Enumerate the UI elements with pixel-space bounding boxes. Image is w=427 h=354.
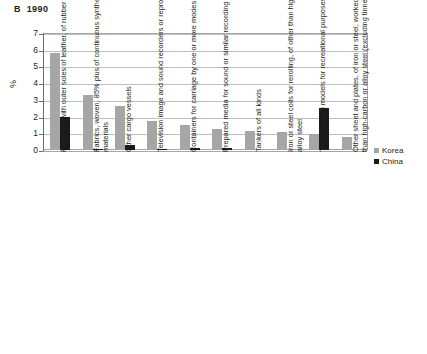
y-tick-label-6: 6 [16,46,38,55]
category-label-9: Other sheet and plates, of iron or steel… [352,0,369,152]
y-tick-label-4: 4 [16,79,38,88]
category-label-6: Tankers of all kinds [255,0,264,152]
category-label-0: Footwear with outer soles of leather, of… [60,0,69,152]
chart-title: B 1990 [14,4,48,14]
category-label-7: Iron or steel coils for rerolling, of ot… [287,0,304,152]
legend-label-korea: Korea [382,145,403,156]
chart-panel: B 1990 % 01234567 Footwear with outer so… [0,0,427,354]
category-label-cell: Iron or steel coils for rerolling, of ot… [271,152,303,350]
category-label-cell: Prepared media for sound or similar reco… [206,152,238,350]
category-label-cell: Tankers of all kinds [238,152,270,350]
category-label-3: Television image and sound recorders or … [157,0,166,152]
x-axis-category-labels: Footwear with outer soles of leather, of… [44,152,368,350]
category-label-cell: Footwear with outer soles of leather, of… [44,152,76,350]
y-tick-label-1: 1 [16,129,38,138]
y-tick-label-3: 3 [16,96,38,105]
y-axis-tick-labels: 01234567 [14,33,38,151]
legend-swatch-korea [374,148,379,153]
legend-swatch-china [374,159,379,164]
category-label-cell: Toys; working models for recreational pu… [303,152,335,350]
category-label-2: Other cargo vessels [125,0,134,152]
y-tick-mark-0 [39,151,43,152]
category-label-cell: Other sheet and plates, of iron or steel… [336,152,368,350]
category-label-cell: Fabrics, woven, 85% plus of continuous s… [76,152,108,350]
legend-label-china: China [382,156,403,167]
y-tick-label-0: 0 [16,146,38,155]
category-label-cell: Containers for carriage by one or more m… [174,152,206,350]
y-tick-label-7: 7 [16,29,38,38]
y-tick-label-5: 5 [16,62,38,71]
legend-item-korea[interactable]: Korea [374,145,403,156]
category-label-cell: Other cargo vessels [109,152,141,350]
legend-item-china[interactable]: China [374,156,403,167]
y-tick-label-2: 2 [16,113,38,122]
category-label-5: Prepared media for sound or similar reco… [222,0,231,152]
category-label-4: Containers for carriage by one or more m… [190,0,199,152]
category-label-8: Toys; working models for recreational pu… [319,0,328,152]
chart-legend: KoreaChina [374,145,403,167]
category-label-1: Fabrics, woven, 85% plus of continuous s… [93,0,110,152]
category-label-cell: Television image and sound recorders or … [141,152,173,350]
